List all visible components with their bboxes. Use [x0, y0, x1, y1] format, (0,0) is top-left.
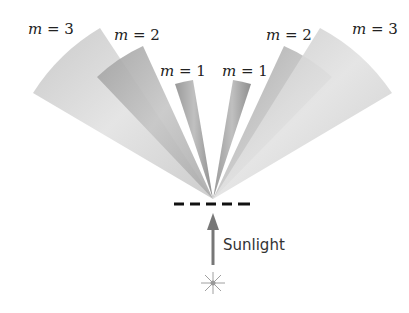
order-label-left-1: m = 1	[160, 62, 206, 80]
order-label-right-1: m = 1	[222, 62, 268, 80]
order-label-left-3: m = 3	[28, 20, 74, 38]
sunlight-label: Sunlight	[223, 236, 285, 254]
order-label-left-2: m = 2	[114, 26, 160, 44]
order-label-right-2: m = 2	[266, 26, 312, 44]
sun-star-icon	[201, 272, 225, 294]
sunlight-arrow-icon	[207, 213, 219, 265]
order-label-right-3: m = 3	[352, 20, 398, 38]
diffraction-diagram	[0, 0, 409, 313]
